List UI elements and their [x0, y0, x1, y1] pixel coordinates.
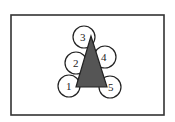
label-2: 2	[73, 57, 79, 69]
label-3: 3	[80, 31, 86, 43]
label-4: 4	[101, 51, 107, 63]
label-5: 5	[108, 81, 114, 93]
diagram-canvas: 1 2 3 4 5	[0, 0, 175, 122]
label-1: 1	[66, 80, 72, 92]
